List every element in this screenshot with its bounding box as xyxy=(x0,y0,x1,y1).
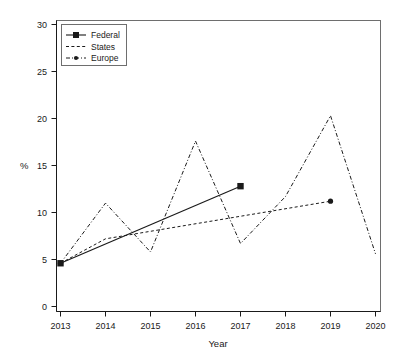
y-axis-ticks: 0 5 10 15 20 25 30 xyxy=(37,20,57,312)
x-tick-label-2019: 2019 xyxy=(320,321,340,331)
y-axis-title: % xyxy=(20,160,29,171)
legend-label-europe: Europe xyxy=(91,53,119,63)
series-states xyxy=(58,199,333,266)
x-axis-title: Year xyxy=(208,338,227,349)
x-tick-label-2017: 2017 xyxy=(230,321,250,331)
legend-marker-dot-icon xyxy=(74,56,78,60)
x-tick-label-2016: 2016 xyxy=(185,321,205,331)
chart-legend: Federal States Europe xyxy=(62,25,127,66)
series-line-europe xyxy=(61,116,376,264)
y-tick-label-10: 10 xyxy=(37,208,47,218)
x-tick-label-2015: 2015 xyxy=(140,321,160,331)
series-europe xyxy=(59,116,376,265)
y-tick-label-0: 0 xyxy=(42,302,47,312)
y-tick-label-20: 20 xyxy=(37,114,47,124)
series-federal xyxy=(57,183,243,266)
legend-label-states: States xyxy=(91,42,115,52)
x-tick-label-2018: 2018 xyxy=(275,321,295,331)
x-tick-label-2020: 2020 xyxy=(365,321,385,331)
chart-container: 0 5 10 15 20 25 30 % 2013 2014 2015 xyxy=(0,0,405,364)
series-line-states xyxy=(61,201,331,263)
x-tick-label-2014: 2014 xyxy=(95,321,115,331)
y-tick-label-15: 15 xyxy=(37,161,47,171)
y-tick-label-25: 25 xyxy=(37,67,47,77)
x-tick-label-2013: 2013 xyxy=(50,321,70,331)
legend-label-federal: Federal xyxy=(91,30,120,40)
series-layer xyxy=(57,116,375,267)
x-axis-ticks: 2013 2014 2015 2016 2017 2018 2019 2020 xyxy=(50,312,385,332)
data-point-dot-marker xyxy=(59,261,63,265)
data-point-dot-marker xyxy=(328,199,333,204)
y-tick-label-5: 5 xyxy=(42,255,47,265)
legend-marker-square-icon xyxy=(73,32,79,38)
line-chart: 0 5 10 15 20 25 30 % 2013 2014 2015 xyxy=(0,0,405,364)
data-point-square-marker xyxy=(237,183,243,189)
y-tick-label-30: 30 xyxy=(37,20,47,30)
